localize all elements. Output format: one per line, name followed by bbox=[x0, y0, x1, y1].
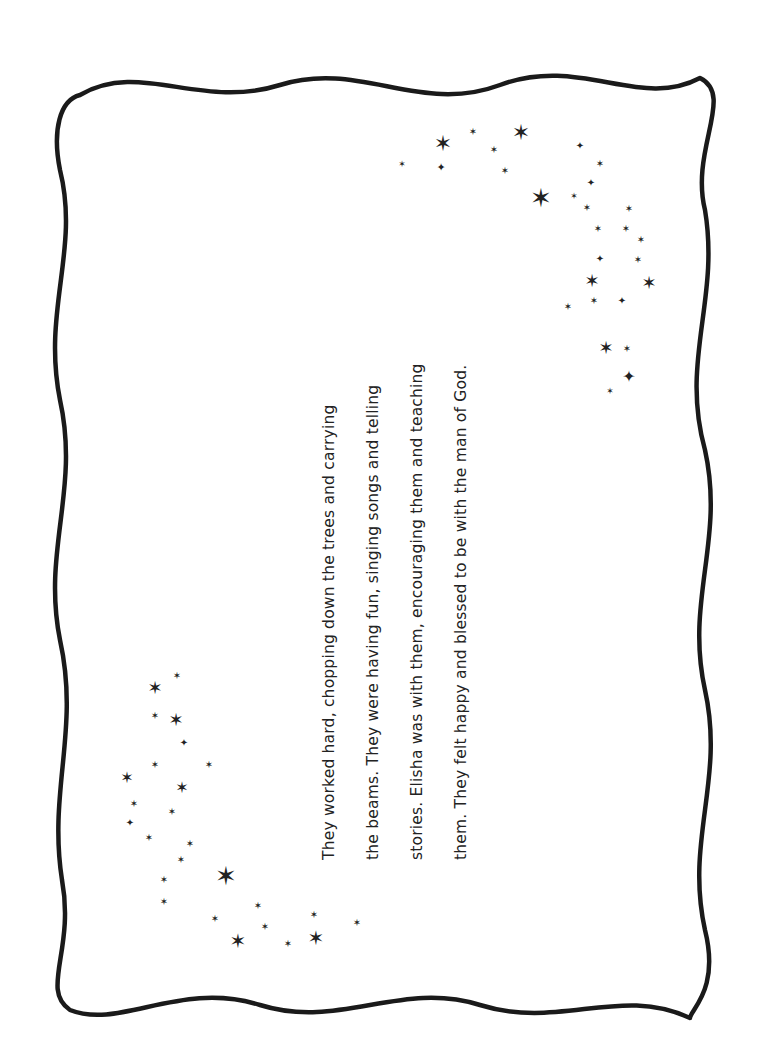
story-line-1: They worked hard, chopping down the tree… bbox=[320, 260, 338, 860]
star-icon: ✶ bbox=[151, 760, 159, 770]
star-icon: ✶ bbox=[215, 863, 237, 889]
star-icon: ✶ bbox=[598, 339, 613, 357]
star-icon: ✶ bbox=[623, 344, 631, 354]
star-icon: ✶ bbox=[308, 928, 325, 948]
star-icon: ✶ bbox=[637, 235, 645, 245]
star-icon: ✶ bbox=[151, 711, 159, 721]
star-icon: ✶ bbox=[284, 939, 292, 949]
star-icon: ✶ bbox=[147, 679, 162, 697]
star-icon: ✶ bbox=[173, 671, 181, 681]
star-icon: ✶ bbox=[177, 855, 185, 865]
star-icon: ✶ bbox=[501, 166, 509, 176]
star-icon: ✶ bbox=[145, 833, 153, 843]
star-icon: ✶ bbox=[625, 204, 633, 214]
star-icon: ✶ bbox=[353, 918, 361, 928]
star-icon: ✶ bbox=[622, 224, 630, 234]
star-icon: ✶ bbox=[469, 127, 477, 137]
star-icon: ✦ bbox=[126, 818, 134, 828]
star-icon: ✶ bbox=[186, 839, 194, 849]
star-icon: ✶ bbox=[512, 122, 530, 144]
star-icon: ✦ bbox=[622, 369, 635, 385]
star-icon: ✶ bbox=[168, 711, 183, 729]
story-line-3: stories. Elisha was with them, encouragi… bbox=[408, 260, 426, 860]
star-icon: ✶ bbox=[254, 901, 262, 911]
story-line-4: them. They felt happy and blessed to be … bbox=[452, 260, 470, 860]
star-icon: ✶ bbox=[230, 931, 247, 951]
star-icon: ✶ bbox=[120, 770, 133, 786]
star-icon: ✶ bbox=[168, 807, 176, 817]
star-icon: ✶ bbox=[530, 185, 552, 211]
story-text: They worked hard, chopping down the tree… bbox=[320, 260, 470, 860]
star-icon: ✶ bbox=[130, 799, 138, 809]
star-icon: ✶ bbox=[590, 296, 598, 306]
star-icon: ✶ bbox=[261, 922, 269, 932]
star-icon: ✶ bbox=[211, 914, 219, 924]
star-icon: ✶ bbox=[596, 159, 604, 169]
star-icon: ✶ bbox=[160, 875, 168, 885]
star-icon: ✦ bbox=[436, 162, 445, 173]
star-icon: ✦ bbox=[587, 178, 595, 188]
star-icon: ✶ bbox=[434, 133, 452, 155]
story-line-2: the beams. They were having fun, singing… bbox=[364, 260, 382, 860]
star-icon: ✦ bbox=[596, 254, 604, 264]
star-icon: ✶ bbox=[641, 274, 656, 292]
star-icon: ✶ bbox=[160, 897, 168, 907]
star-icon: ✶ bbox=[606, 387, 614, 396]
star-icon: ✶ bbox=[583, 203, 591, 213]
star-icon: ✦ bbox=[618, 296, 626, 306]
star-icon: ✶ bbox=[490, 145, 498, 155]
star-icon: ✦ bbox=[576, 141, 584, 151]
star-icon: ✦ bbox=[180, 738, 188, 748]
star-icon: ✶ bbox=[398, 160, 406, 169]
star-icon: ✶ bbox=[594, 224, 602, 234]
star-icon: ✶ bbox=[570, 192, 578, 201]
star-icon: ✶ bbox=[175, 780, 188, 796]
star-icon: ✶ bbox=[564, 302, 572, 312]
star-icon: ✶ bbox=[310, 910, 318, 920]
star-icon: ✶ bbox=[634, 255, 642, 265]
star-icon: ✶ bbox=[205, 760, 213, 770]
star-icon: ✶ bbox=[584, 272, 599, 290]
